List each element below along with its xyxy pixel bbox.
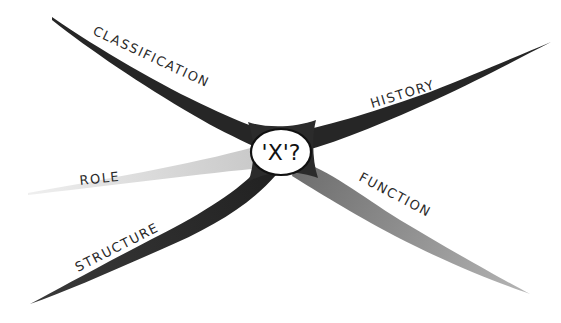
branch-role <box>28 146 262 195</box>
branch-classification <box>52 17 272 150</box>
label-role: ROLE <box>79 169 121 188</box>
branch-history <box>296 42 551 152</box>
center-label: 'X'? <box>262 140 301 165</box>
concept-diagram: 'X'? CLASSIFICATION HISTORY ROLE STRUCTU… <box>0 0 561 323</box>
branch-function <box>292 160 530 294</box>
